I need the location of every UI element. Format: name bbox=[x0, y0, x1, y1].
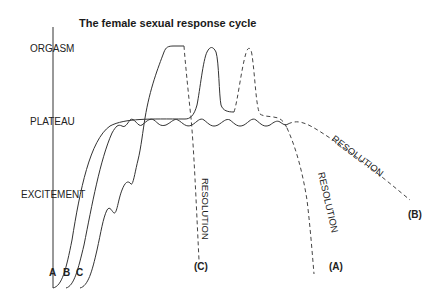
endpoint-label-a: (A) bbox=[329, 261, 343, 272]
stage-label-orgasm: ORGASM bbox=[30, 43, 74, 54]
curve-a-resolution bbox=[287, 128, 314, 274]
stage-label-plateau: PLATEAU bbox=[30, 116, 75, 127]
stage-label-excitement: EXCITEMENT bbox=[21, 189, 85, 200]
curve-a-dashed-peak bbox=[234, 48, 287, 128]
diagram-title: The female sexual response cycle bbox=[79, 17, 256, 29]
response-cycle-diagram: The female sexual response cycle ORGASM … bbox=[0, 0, 444, 299]
resolution-label-c: RESOLUTION bbox=[200, 178, 211, 240]
curve-c-solid bbox=[80, 46, 184, 288]
endpoint-label-b: (B) bbox=[408, 209, 422, 220]
resolution-label-b: RESOLUTION bbox=[330, 133, 386, 179]
curve-b-resolution bbox=[288, 122, 410, 200]
curve-label-b: B bbox=[63, 267, 70, 278]
curve-c-resolution bbox=[184, 46, 199, 260]
curve-a-solid bbox=[53, 48, 234, 289]
curve-label-a: A bbox=[49, 267, 56, 278]
curve-b-solid bbox=[66, 119, 288, 288]
endpoint-label-c: (C) bbox=[194, 261, 208, 272]
resolution-label-a: RESOLUTION bbox=[316, 171, 341, 234]
curve-label-c: C bbox=[76, 267, 83, 278]
